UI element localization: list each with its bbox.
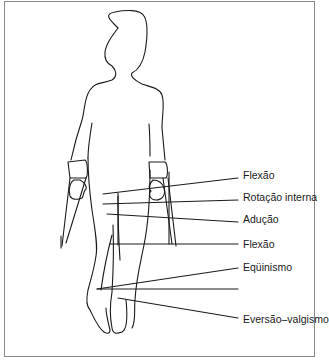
label-flexao: Flexão [243, 169, 275, 181]
label-equinismo: Eqüinismo [243, 261, 292, 273]
label-eversao-valgismo: Eversão–valgismo [243, 313, 329, 325]
right-leg-outline [132, 170, 150, 328]
right-hand [149, 180, 164, 200]
label-flexao-knee: Flexão [243, 238, 275, 250]
right-crutch-cuff [149, 162, 167, 178]
head-outline [109, 11, 165, 160]
label-aducao: Adução [243, 213, 279, 225]
left-leg-outline [87, 158, 110, 333]
left-crutch-cuff [68, 160, 87, 178]
label-rotacao-interna: Rotação interna [243, 191, 317, 203]
head-left [71, 28, 118, 160]
left-hand [69, 180, 86, 199]
